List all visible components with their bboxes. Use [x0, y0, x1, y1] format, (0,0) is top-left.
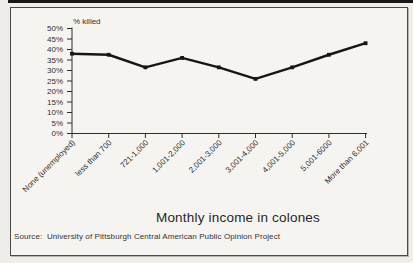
data-point-marker: [290, 65, 294, 69]
y-tick-label: 15%: [47, 98, 63, 107]
x-tick-label: less than 700: [74, 138, 114, 178]
y-tick-label: 10%: [47, 108, 63, 117]
y-tick-label: 40%: [47, 45, 63, 54]
x-tick-label: None (unemployed): [21, 138, 77, 194]
y-tick-label: 35%: [47, 56, 63, 65]
data-point-marker: [254, 77, 258, 81]
data-point-marker: [180, 56, 184, 60]
data-point-marker: [364, 41, 368, 45]
data-point-marker: [107, 53, 111, 57]
y-axis-label: % killed: [73, 17, 101, 26]
x-tick-label: 721-1,000: [118, 138, 150, 170]
y-tick-label: 20%: [47, 87, 63, 96]
line-chart: % killed0%5%10%15%20%25%30%35%40%45%50%N…: [11, 8, 407, 208]
y-tick-label: 0%: [51, 129, 63, 138]
scanned-page: % killed0%5%10%15%20%25%30%35%40%45%50%N…: [0, 0, 413, 263]
x-tick-label: 5,001-6000: [299, 138, 334, 173]
chart-frame: % killed0%5%10%15%20%25%30%35%40%45%50%N…: [10, 7, 408, 256]
x-axis-title: Monthly income in colones: [88, 210, 388, 225]
data-point-marker: [327, 53, 331, 57]
y-tick-label: 25%: [47, 77, 63, 86]
page-top-rule: [8, 0, 413, 3]
x-tick-label: 2,001-3,000: [187, 138, 224, 175]
data-point-marker: [144, 65, 148, 69]
y-tick-label: 5%: [51, 119, 63, 128]
x-tick-label: 3,001-4,000: [224, 138, 261, 175]
data-point-marker: [217, 65, 221, 69]
y-tick-label: 50%: [47, 24, 63, 33]
y-tick-label: 45%: [47, 35, 63, 44]
data-point-marker: [70, 52, 74, 56]
x-tick-label: 1,001-2,000: [150, 138, 187, 175]
y-tick-label: 30%: [47, 66, 63, 75]
data-line: [72, 43, 366, 79]
source-credit: Source: University of Pittsburgh Central…: [14, 232, 280, 241]
x-tick-label: 4,001-5,000: [261, 138, 298, 175]
